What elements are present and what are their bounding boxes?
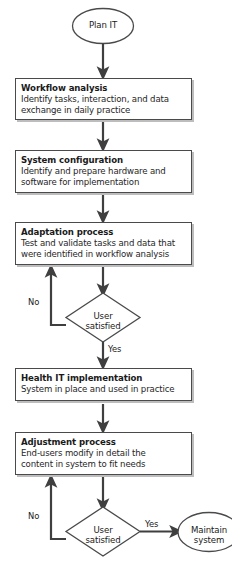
process-body-line2: content in system to fit needs [21, 459, 191, 470]
process-box-health-it-implementation[interactable]: Health IT implementation System in place… [15, 368, 192, 401]
decision1-yes-label: Yes [108, 344, 121, 354]
decision1-no-label: No [28, 297, 39, 307]
process-body-line1: System in place and used in practice [21, 384, 191, 395]
process-title: System configuration [21, 155, 191, 166]
process-body-line2: were identified in workflow analysis [21, 249, 191, 260]
process-body-line2: exchange in daily practice [21, 105, 191, 116]
process-box-adaptation-process[interactable]: Adaptation process Test and validate tas… [15, 222, 192, 265]
process-title: Health IT implementation [21, 373, 191, 384]
decision1-shape [66, 293, 140, 342]
process-body-line1: Test and validate tasks and data that [21, 238, 191, 249]
process-body-line1: Identify and prepare hardware and [21, 166, 191, 177]
edge-decision2-no-loop [51, 481, 66, 539]
decision2-shape [66, 507, 140, 556]
flowchart-canvas: Plan IT Workflow analysis Identify tasks… [0, 0, 232, 567]
process-body-line2: software for implementation [21, 177, 191, 188]
process-box-workflow-analysis[interactable]: Workflow analysis Identify tasks, intera… [15, 78, 192, 120]
process-title: Workflow analysis [21, 83, 191, 94]
process-title: Adaptation process [21, 227, 191, 238]
decision2-yes-label: Yes [145, 519, 158, 529]
process-box-system-configuration[interactable]: System configuration Identify and prepar… [15, 150, 192, 193]
edge-decision1-no-loop [51, 271, 66, 325]
start-node-shape [73, 9, 134, 44]
process-title: Adjustment process [21, 437, 191, 448]
decision2-no-label: No [28, 511, 39, 521]
end-node-shape [178, 513, 232, 552]
process-box-adjustment-process[interactable]: Adjustment process End-users modify in d… [15, 432, 192, 475]
process-body-line1: Identify tasks, interaction, and data [21, 94, 191, 105]
process-body-line1: End-users modify in detail the [21, 448, 191, 459]
